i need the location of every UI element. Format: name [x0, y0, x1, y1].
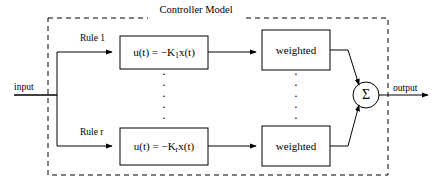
input-label: input [14, 82, 34, 92]
weighted-label-row-1: weighted [276, 44, 317, 56]
control-law-text-row-2: u(t) = −Krx(t) [134, 140, 195, 154]
ellipsis-dot-rule: · [162, 110, 166, 125]
output-label: output [393, 83, 418, 93]
summation-symbol: Σ [362, 87, 370, 102]
control-law-text-row-1: u(t) = −K1x(t) [133, 46, 195, 60]
law-suffix-row-2: x(t) [178, 140, 194, 153]
controller-model-diagram: Controller Model input output Rule 1 Rul… [0, 0, 437, 188]
vertical-ellipsis-weighted-column: ····· [294, 66, 298, 125]
law-suffix-row-1: x(t) [179, 46, 195, 59]
rule-label-row-2: Rule r [80, 127, 104, 137]
vertical-ellipsis-rule-column: ····· [162, 66, 166, 125]
law-prefix-row-2: u(t) = −K [134, 140, 176, 153]
ellipsis-dot-weighted: · [294, 110, 298, 125]
rule-label-row-1: Rule 1 [80, 33, 105, 43]
diagram-text-layer: Controller Model input output Rule 1 Rul… [0, 0, 437, 188]
law-prefix-row-1: u(t) = −K [133, 46, 175, 59]
weighted-label-row-2: weighted [276, 140, 317, 152]
diagram-title: Controller Model [159, 4, 232, 15]
